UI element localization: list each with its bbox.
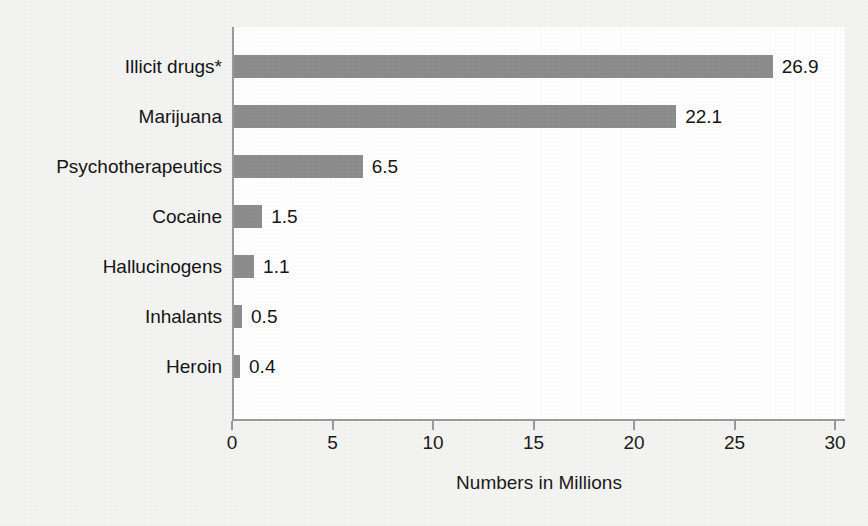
x-axis-tick-mark (734, 421, 736, 430)
bar-value-label: 1.1 (263, 256, 289, 278)
x-axis-tick-mark (834, 421, 836, 430)
bar (232, 105, 676, 128)
x-axis-tick-label: 20 (623, 432, 644, 454)
x-axis-tick-label: 10 (422, 432, 443, 454)
bar (232, 55, 773, 78)
x-axis-tick-label: 15 (523, 432, 544, 454)
bar (232, 255, 254, 278)
bar-row: 1.5 (232, 205, 835, 228)
bar-value-label: 22.1 (685, 106, 722, 128)
bar-row: 22.1 (232, 105, 835, 128)
x-axis-title: Numbers in Millions (233, 472, 845, 494)
bar-row: 0.5 (232, 305, 835, 328)
bar-value-label: 1.5 (271, 206, 297, 228)
bar-value-label: 0.5 (251, 306, 277, 328)
x-axis-tick-mark (231, 421, 233, 430)
bar-row: 1.1 (232, 255, 835, 278)
category-label: Illicit drugs* (0, 56, 222, 78)
x-axis-tick-label: 0 (227, 432, 238, 454)
category-label: Hallucinogens (0, 256, 222, 278)
x-axis-tick-mark (432, 421, 434, 430)
category-label: Heroin (0, 356, 222, 378)
bar-chart-figure: 26.922.16.51.51.10.50.4 Illicit drugs*Ma… (0, 0, 868, 526)
category-label: Marijuana (0, 106, 222, 128)
bar-row: 6.5 (232, 155, 835, 178)
x-axis-tick-label: 25 (724, 432, 745, 454)
category-label: Inhalants (0, 306, 222, 328)
bar-row: 26.9 (232, 55, 835, 78)
x-axis-tick-mark (633, 421, 635, 430)
bar-value-label: 0.4 (249, 356, 275, 378)
x-axis-tick-mark (332, 421, 334, 430)
bar-row: 0.4 (232, 355, 835, 378)
x-axis-line (232, 419, 845, 421)
x-axis-tick-label: 5 (327, 432, 338, 454)
category-label: Cocaine (0, 206, 222, 228)
x-axis-tick-label: 30 (824, 432, 845, 454)
bar (232, 205, 262, 228)
x-axis-tick-mark (533, 421, 535, 430)
category-label: Psychotherapeutics (0, 156, 222, 178)
bar-value-label: 26.9 (782, 56, 819, 78)
y-axis-line (232, 27, 234, 421)
bar-value-label: 6.5 (372, 156, 398, 178)
bar (232, 155, 363, 178)
